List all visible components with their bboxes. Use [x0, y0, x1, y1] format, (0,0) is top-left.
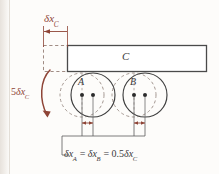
label-5-delta-xc-text: 5δxC: [11, 86, 30, 97]
dimension-arrow-delta-xb: [134, 121, 145, 125]
label-delta-xc: δxC: [44, 13, 59, 27]
label-delta-xc-text: δxC: [44, 12, 59, 24]
label-body-c: C: [122, 51, 129, 62]
bar-c-original-dashed-outline: [44, 46, 68, 72]
label-displacement-relation: δxA = δxB = 0.5δxC: [64, 149, 138, 162]
top-dimension-extension-lines: [44, 26, 68, 47]
label-5-delta-xc: 5δxC: [11, 87, 30, 100]
label-wheel-a: A: [78, 77, 84, 87]
top-dimension-arrow-delta-xc: [44, 29, 67, 33]
label-relation-text: δxA = δxB = 0.5δxC: [64, 148, 138, 159]
bar-c-displaced-rect: [68, 46, 207, 72]
rotation-arc-arrow-5-delta-xc: [42, 70, 51, 118]
wheel-b-centre-displaced-dot: [143, 93, 147, 97]
label-wheel-b: B: [130, 77, 136, 87]
wheel-a-centre-displaced-dot: [91, 93, 95, 97]
dimension-arrow-delta-xa: [82, 121, 93, 125]
wheel-a-centre-original-dot: [80, 93, 84, 97]
wheel-b-centre-original-dot: [132, 93, 136, 97]
figure-canvas: δxC 5δxC C A B δxA = δxB = 0.5δxC: [0, 0, 219, 174]
